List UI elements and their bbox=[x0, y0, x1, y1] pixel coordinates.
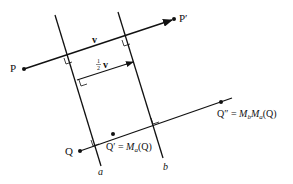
line-b bbox=[118, 12, 163, 158]
point-Q-prime bbox=[111, 132, 115, 136]
right-angle-mark-half-v bbox=[79, 80, 87, 86]
label-P: P bbox=[10, 62, 16, 74]
label-half-den: 2 bbox=[97, 65, 100, 71]
label-Q-prime: Q′ = Ma(Q) bbox=[106, 141, 152, 154]
point-Q bbox=[78, 149, 82, 153]
label-half-v: v bbox=[103, 59, 108, 70]
label-line-b: b bbox=[163, 161, 168, 172]
reflection-translation-diagram: P P′ v 1 2 v Q Q′ = Ma(Q) Q″ = MbMa(Q) a… bbox=[0, 0, 293, 184]
label-Q: Q bbox=[65, 145, 73, 157]
label-half-num: 1 bbox=[97, 58, 100, 64]
label-Q-double-prime: Q″ = MbMa(Q) bbox=[217, 108, 277, 121]
label-line-a: a bbox=[98, 166, 103, 177]
line-through-Q bbox=[80, 98, 232, 151]
label-v: v bbox=[92, 34, 97, 45]
point-Q-double-prime bbox=[219, 100, 223, 104]
label-P-prime: P′ bbox=[179, 12, 188, 24]
point-P-prime bbox=[172, 17, 176, 21]
point-P bbox=[22, 67, 26, 71]
